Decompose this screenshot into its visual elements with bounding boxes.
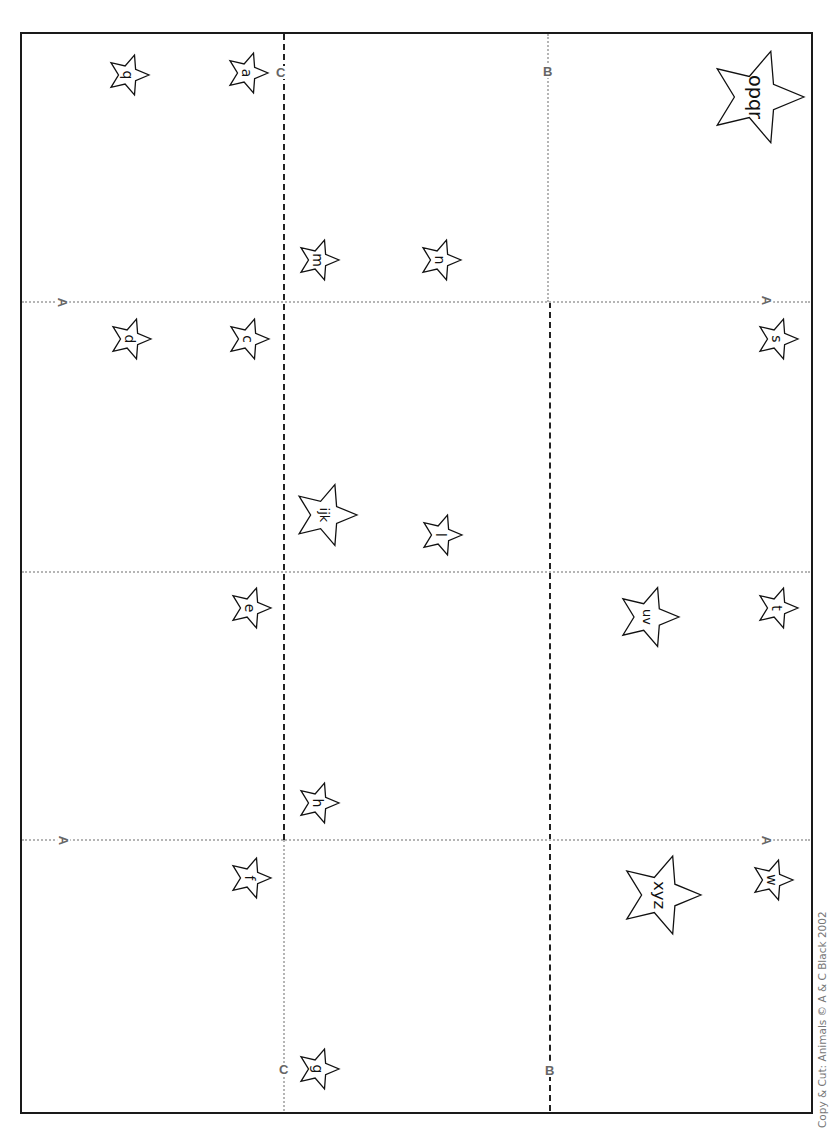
star-d: d bbox=[109, 318, 151, 360]
star-q: q bbox=[107, 54, 149, 96]
star-h: h bbox=[297, 782, 339, 824]
cut-line-c bbox=[283, 34, 285, 840]
star-letters: w bbox=[751, 859, 793, 901]
guide-label-b-top: B bbox=[543, 65, 552, 78]
star-letters: d bbox=[109, 318, 151, 360]
guide-label-c-top: C bbox=[276, 66, 285, 79]
star-s: s bbox=[756, 318, 798, 360]
star-xyz: xyz bbox=[619, 854, 701, 936]
star-t: t bbox=[756, 587, 798, 629]
star-c: c bbox=[227, 318, 269, 360]
guide-label-a-left-1: A bbox=[56, 298, 69, 307]
star-letters: c bbox=[227, 318, 269, 360]
star-letters: e bbox=[229, 587, 271, 629]
fold-line-a-3 bbox=[22, 839, 810, 841]
star-letters: xyz bbox=[619, 854, 701, 936]
star-letters: uv bbox=[617, 586, 679, 648]
star-letters: opqr bbox=[708, 49, 804, 145]
star-g: g bbox=[297, 1048, 339, 1090]
star-a: a bbox=[226, 52, 268, 94]
cut-border bbox=[20, 32, 813, 1114]
guide-label-a-right-1: A bbox=[760, 296, 773, 305]
star-n: n bbox=[419, 239, 461, 281]
star-letters: ijk bbox=[293, 483, 357, 547]
star-opqr: opqr bbox=[708, 49, 804, 145]
star-letters: q bbox=[107, 54, 149, 96]
star-uv: uv bbox=[617, 586, 679, 648]
fold-line-a-1 bbox=[22, 301, 810, 303]
star-e: e bbox=[229, 587, 271, 629]
guide-label-c-bottom: C bbox=[279, 1063, 288, 1076]
star-f: f bbox=[229, 857, 271, 899]
fold-line-a-2 bbox=[22, 571, 810, 573]
star-letters: s bbox=[756, 318, 798, 360]
star-letters: h bbox=[297, 782, 339, 824]
star-l: l bbox=[420, 514, 462, 556]
star-letters: a bbox=[226, 52, 268, 94]
star-letters: f bbox=[229, 857, 271, 899]
star-ijk: ijk bbox=[293, 483, 357, 547]
star-m: m bbox=[297, 239, 339, 281]
star-letters: m bbox=[297, 239, 339, 281]
star-letters: t bbox=[756, 587, 798, 629]
star-letters: l bbox=[420, 514, 462, 556]
guide-label-a-left-2: A bbox=[57, 836, 70, 845]
cut-line-b bbox=[549, 302, 551, 1111]
star-w: w bbox=[751, 859, 793, 901]
guide-label-a-right-2: A bbox=[760, 836, 773, 845]
star-letters: g bbox=[297, 1048, 339, 1090]
guide-label-b-bottom: B bbox=[545, 1064, 554, 1077]
copyright-notice: Copy & Cut: Animals © A & C Black 2002 bbox=[816, 911, 828, 1128]
star-letters: n bbox=[419, 239, 461, 281]
